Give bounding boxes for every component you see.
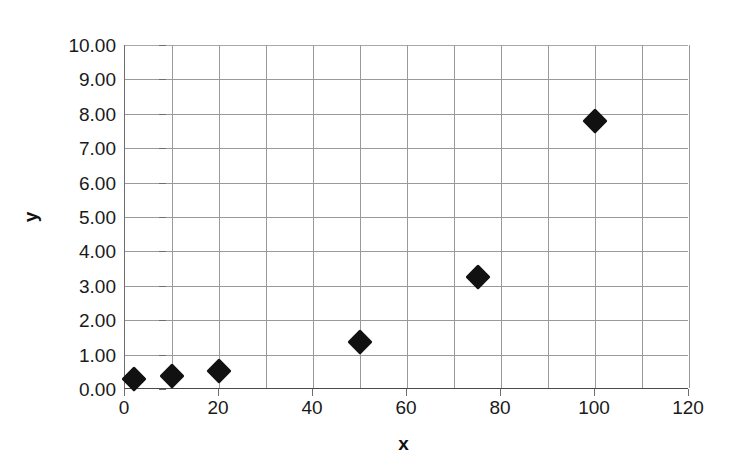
- x-axis-title: x: [0, 433, 739, 455]
- gridline-vertical: [642, 45, 643, 388]
- x-tick-mark: [500, 389, 501, 396]
- gridline-vertical: [407, 45, 408, 388]
- gridline-vertical: [313, 45, 314, 388]
- x-tick-label: 40: [301, 398, 322, 417]
- gridline-vertical: [219, 45, 220, 388]
- y-tick-mark: [159, 251, 166, 252]
- plot-area: [124, 45, 688, 389]
- y-tick-label: 4.00: [79, 242, 116, 261]
- gridline-vertical: [548, 45, 549, 388]
- gridline-vertical: [266, 45, 267, 388]
- scatter-chart: 0.001.002.003.004.005.006.007.008.009.00…: [0, 0, 739, 469]
- y-tick-mark: [159, 320, 166, 321]
- x-tick-label: 0: [119, 398, 130, 417]
- y-tick-mark: [159, 183, 166, 184]
- x-tick-mark: [124, 389, 125, 396]
- gridline-vertical: [595, 45, 596, 388]
- x-tick-label: 80: [489, 398, 510, 417]
- x-tick-label: 20: [207, 398, 228, 417]
- x-tick-mark: [406, 389, 407, 396]
- x-tick-label: 60: [395, 398, 416, 417]
- gridline-vertical: [501, 45, 502, 388]
- y-tick-mark: [159, 79, 166, 80]
- gridline-vertical: [172, 45, 173, 388]
- gridline-vertical: [454, 45, 455, 388]
- y-tick-mark: [159, 286, 166, 287]
- y-tick-label: 1.00: [79, 346, 116, 365]
- y-tick-label: 2.00: [79, 311, 116, 330]
- x-tick-label: 120: [672, 398, 704, 417]
- y-axis-tick-labels: 0.001.002.003.004.005.006.007.008.009.00…: [42, 0, 116, 469]
- y-tick-mark: [159, 45, 166, 46]
- y-tick-label: 10.00: [68, 36, 116, 55]
- y-axis-title: y: [20, 204, 42, 230]
- y-tick-label: 0.00: [79, 380, 116, 399]
- y-tick-mark: [159, 114, 166, 115]
- x-tick-mark: [312, 389, 313, 396]
- y-tick-mark: [159, 389, 166, 390]
- y-tick-mark: [159, 217, 166, 218]
- gridline-vertical: [689, 45, 690, 388]
- x-tick-mark: [594, 389, 595, 396]
- y-tick-label: 3.00: [79, 277, 116, 296]
- x-tick-label: 100: [578, 398, 610, 417]
- y-tick-mark: [159, 148, 166, 149]
- y-tick-label: 8.00: [79, 105, 116, 124]
- y-tick-label: 7.00: [79, 139, 116, 158]
- y-tick-label: 6.00: [79, 174, 116, 193]
- y-tick-mark: [159, 355, 166, 356]
- x-tick-mark: [688, 389, 689, 396]
- y-tick-label: 9.00: [79, 70, 116, 89]
- y-tick-label: 5.00: [79, 208, 116, 227]
- x-tick-mark: [218, 389, 219, 396]
